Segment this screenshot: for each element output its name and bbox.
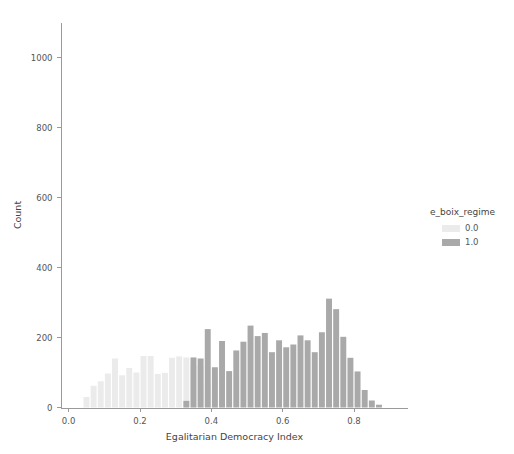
histogram-bar xyxy=(133,373,139,408)
histogram-bar xyxy=(255,336,261,407)
histogram-bar xyxy=(198,359,204,408)
histogram-bar xyxy=(205,329,211,407)
histogram-bar xyxy=(305,340,311,407)
histogram-bar xyxy=(98,381,104,407)
bars-layer xyxy=(84,299,382,408)
histogram-bar xyxy=(347,358,353,408)
y-tick-label: 600 xyxy=(36,193,52,203)
legend-swatch xyxy=(442,239,460,246)
histogram-bar xyxy=(155,374,161,408)
y-tick-label: 400 xyxy=(36,263,52,273)
histogram-bar xyxy=(283,347,289,407)
histogram-bar xyxy=(119,375,125,407)
histogram-bar xyxy=(219,341,225,408)
histogram-bar xyxy=(276,340,282,407)
histogram-bar xyxy=(183,357,189,407)
x-tick-label: 0.6 xyxy=(276,416,290,426)
histogram-bar xyxy=(112,359,118,408)
y-axis-ticks: 02004006008001000 xyxy=(31,53,61,413)
histogram-bar xyxy=(262,333,268,408)
histogram-bar xyxy=(319,332,325,407)
x-axis-title: Egalitarian Democracy Index xyxy=(166,431,304,442)
histogram-bar xyxy=(233,350,239,407)
chart-legend: e_boix_regime 0.01.0 xyxy=(430,207,496,247)
bar-series xyxy=(84,356,225,407)
x-tick-label: 0.0 xyxy=(62,416,76,426)
bar-series xyxy=(183,299,382,408)
y-axis-title: Count xyxy=(12,201,23,229)
histogram-bar xyxy=(248,326,254,408)
histogram-bar xyxy=(240,342,246,408)
histogram-bar xyxy=(269,352,275,407)
footer-text-remnant xyxy=(6,444,256,454)
histogram-bar xyxy=(362,390,368,408)
histogram-bar xyxy=(91,386,97,408)
histogram-bar xyxy=(148,356,154,407)
y-tick-label: 0 xyxy=(47,403,52,413)
histogram-bar xyxy=(183,401,189,408)
legend-swatch xyxy=(442,225,460,232)
legend-entries: 0.01.0 xyxy=(442,223,479,247)
histogram-bar xyxy=(84,397,90,408)
chart-canvas: 02004006008001000 0.00.20.40.60.8 Egalit… xyxy=(0,0,514,454)
histogram-bar xyxy=(191,357,197,407)
y-tick-label: 1000 xyxy=(31,53,53,63)
histogram-bar xyxy=(340,337,346,408)
histogram-bar xyxy=(298,335,304,407)
histogram-bar xyxy=(105,374,111,408)
histogram-bar xyxy=(176,356,182,407)
histogram-bar xyxy=(333,309,339,407)
histogram-bar xyxy=(141,356,147,407)
histogram-bar xyxy=(369,401,375,408)
histogram-bar xyxy=(226,371,232,407)
histogram-bar xyxy=(126,368,132,408)
histogram-bar xyxy=(290,345,296,408)
histogram-bar xyxy=(326,299,332,408)
y-tick-label: 200 xyxy=(36,333,52,343)
histogram-bar xyxy=(376,405,382,408)
histogram-figure: 02004006008001000 0.00.20.40.60.8 Egalit… xyxy=(0,0,514,454)
legend-title: e_boix_regime xyxy=(430,207,496,217)
histogram-bar xyxy=(355,371,361,407)
histogram-bar xyxy=(212,367,218,407)
legend-label: 0.0 xyxy=(465,223,479,233)
x-tick-label: 0.8 xyxy=(347,416,361,426)
x-axis-ticks: 0.00.20.40.60.8 xyxy=(62,408,361,426)
y-tick-label: 800 xyxy=(36,123,52,133)
histogram-bar xyxy=(162,373,168,408)
x-tick-label: 0.2 xyxy=(133,416,147,426)
histogram-bar xyxy=(169,358,175,408)
histogram-bar xyxy=(312,352,318,407)
legend-label: 1.0 xyxy=(465,237,479,247)
x-tick-label: 0.4 xyxy=(205,416,219,426)
